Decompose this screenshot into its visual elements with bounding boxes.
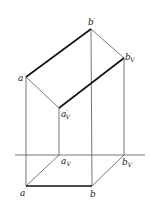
projector-b [91, 29, 92, 186]
label-aV-prime: a′V [61, 108, 71, 120]
line-b-bV [92, 155, 124, 186]
label-bV-prime: b′V [125, 51, 135, 63]
line-b-prime-bV-prime [91, 29, 124, 58]
label-b-prime: b′ [88, 16, 96, 27]
label-aV: aV [61, 156, 71, 167]
line-a-prime-b-prime [26, 29, 91, 77]
line-a-prime-aV-prime [26, 77, 59, 108]
label-b: b [90, 189, 96, 199]
projection-diagram: b′ b′V a′ a′V aV bV a b [0, 0, 150, 210]
label-a: a [20, 188, 25, 198]
line-a-aV [26, 155, 59, 186]
label-bV: bV [122, 157, 133, 168]
label-a-prime: a′ [18, 72, 25, 83]
